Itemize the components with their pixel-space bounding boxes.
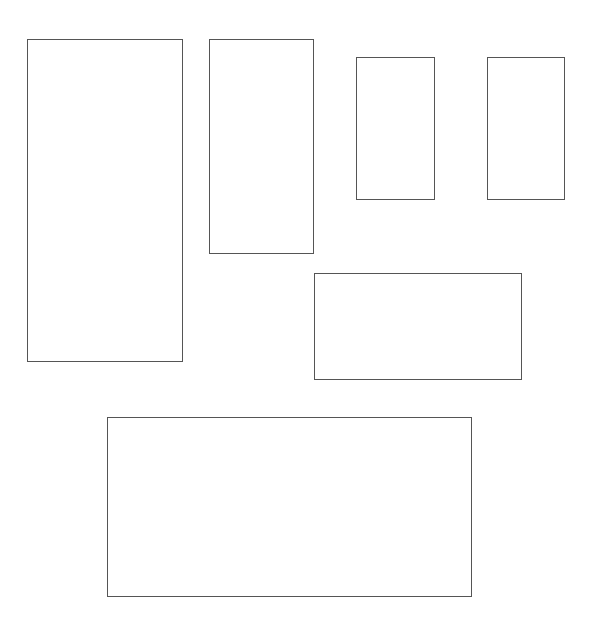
rectangle-2 [209,39,314,254]
rectangle-5 [314,273,522,380]
diagram-canvas [0,0,591,624]
rectangle-6 [107,417,472,597]
rectangle-3 [356,57,435,200]
rectangle-4 [487,57,565,200]
rectangle-1 [27,39,183,362]
